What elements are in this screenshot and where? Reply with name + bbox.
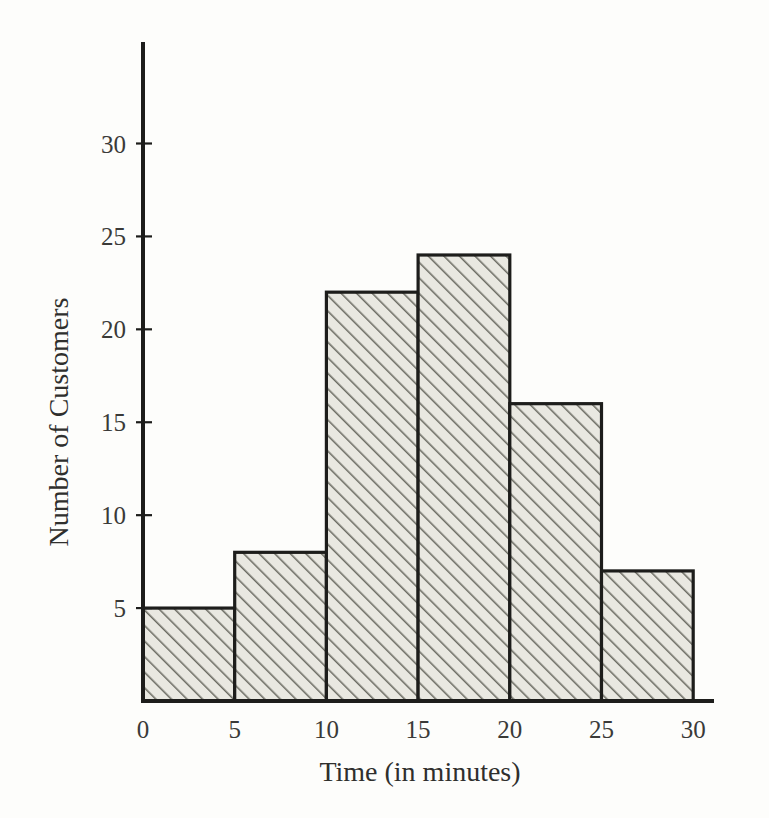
bar-bin-25-30 xyxy=(602,571,694,701)
bar-bin-10-15 xyxy=(326,292,418,701)
y-tick-label-15: 15 xyxy=(101,409,126,436)
bar-bin-20-25 xyxy=(510,404,602,701)
bar-bin-15-20 xyxy=(418,255,510,701)
x-axis-title: Time (in minutes) xyxy=(319,756,520,787)
y-tick-label-20: 20 xyxy=(101,316,126,343)
x-tick-label-25: 25 xyxy=(589,716,614,743)
y-tick-label-30: 30 xyxy=(101,131,126,158)
x-tick-label-5: 5 xyxy=(228,716,241,743)
figure-canvas: 5 10 15 20 25 30 0 5 10 15 20 25 30 Time… xyxy=(0,0,769,818)
y-tick-label-10: 10 xyxy=(101,502,126,529)
x-tick-label-20: 20 xyxy=(497,716,522,743)
x-tick-label-10: 10 xyxy=(314,716,339,743)
bar-bin-0-5 xyxy=(143,608,235,701)
bar-bin-5-10 xyxy=(235,552,327,701)
y-axis-title: Number of Customers xyxy=(43,298,74,547)
x-tick-label-30: 30 xyxy=(681,716,706,743)
y-tick-label-5: 5 xyxy=(114,595,127,622)
y-tick-label-25: 25 xyxy=(101,223,126,250)
x-tick-label-15: 15 xyxy=(406,716,431,743)
x-tick-label-0: 0 xyxy=(137,716,150,743)
histogram-chart: 5 10 15 20 25 30 0 5 10 15 20 25 30 Time… xyxy=(0,0,769,818)
